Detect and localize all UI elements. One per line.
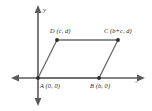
- y-axis-label: y: [43, 7, 46, 14]
- parallelogram-outline: [38, 40, 118, 78]
- coordinate-plane-svg: [0, 0, 152, 111]
- vertex-label-a: A (0, 0): [40, 83, 60, 89]
- y-axis-arrow-up-icon: [35, 5, 42, 13]
- y-axis-arrow-down-icon: [35, 98, 42, 106]
- vertex-dot-a: [36, 76, 40, 80]
- vertex-dot-d: [55, 38, 59, 42]
- x-axis-arrow-right-icon: [137, 75, 145, 82]
- x-axis-arrow-left-icon: [11, 75, 19, 82]
- vertex-label-b: B (b, 0): [90, 83, 110, 89]
- vertex-dots: [36, 38, 120, 80]
- geometry-figure: D (c, d) C (b+c, d) A (0, 0) B (b, 0) y …: [0, 0, 152, 111]
- vertex-dot-b: [97, 76, 101, 80]
- y-axis: [35, 5, 42, 106]
- vertex-label-c: C (b+c, d): [104, 28, 132, 34]
- vertex-label-d: D (c, d): [50, 28, 71, 34]
- x-axis-label: x: [135, 79, 137, 84]
- parallelogram-abcd: [38, 40, 118, 78]
- vertex-dot-c: [116, 38, 120, 42]
